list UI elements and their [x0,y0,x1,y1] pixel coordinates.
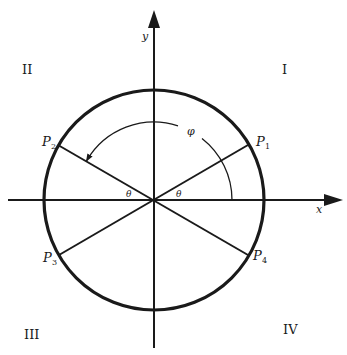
theta-label-right: θ [176,189,182,199]
y-axis-arrow-icon [148,10,160,28]
svg-text:1: 1 [265,142,270,151]
point-label-p3: P 3 [42,250,57,267]
svg-text:P: P [41,134,51,149]
point-label-p1: P 1 [255,134,270,151]
quadrant-label-iii: III [24,327,39,342]
quadrant-label-iv: IV [283,322,298,337]
svg-text:4: 4 [262,256,267,265]
x-axis-arrow-icon [324,194,343,206]
phi-label: φ [187,125,195,138]
theta-label-left: θ [126,189,132,199]
y-axis-label: y [141,30,149,43]
svg-text:2: 2 [51,142,56,151]
unit-circle-diagram: y x II I III IV P 1 P 2 P 3 P 4 θ θ φ [0,0,347,355]
svg-text:P: P [42,250,52,265]
point-label-p4: P 4 [252,248,267,265]
y-axis [148,10,160,348]
svg-text:3: 3 [52,258,57,267]
quadrant-label-i: I [282,62,287,77]
x-axis-label: x [316,203,323,216]
point-label-p2: P 2 [41,134,56,151]
phi-arc-upper [87,122,179,161]
svg-text:P: P [255,134,265,149]
svg-text:P: P [252,248,262,263]
quadrant-label-ii: II [22,62,32,77]
